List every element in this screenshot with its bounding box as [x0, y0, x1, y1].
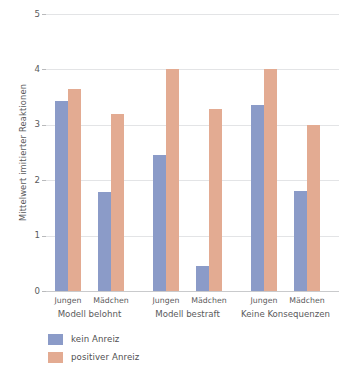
gridline-2 [46, 180, 339, 181]
y-tick-label-1: 1 [26, 231, 40, 240]
y-tick-label-2: 2 [26, 176, 40, 185]
legend-item[interactable]: kein Anreiz [48, 331, 139, 347]
bar [251, 105, 264, 291]
bar [294, 191, 307, 291]
gridline-3 [46, 125, 339, 126]
x-tick-label: Mädchen [179, 296, 239, 305]
x-tick-label: Mädchen [277, 296, 337, 305]
bar-chart-figure: Mittelwert imitierter Reaktionen 012345 … [0, 0, 350, 385]
y-tick-label-4: 4 [26, 65, 40, 74]
gridline-0 [46, 291, 339, 292]
plot-area [46, 14, 339, 291]
legend-swatch-icon [48, 334, 63, 345]
chart-legend: kein Anreizpositiver Anreiz [48, 331, 139, 367]
bar [264, 69, 277, 291]
legend-item[interactable]: positiver Anreiz [48, 349, 139, 365]
bar [68, 89, 81, 291]
y-tick-label-5: 5 [26, 10, 40, 19]
y-tick-label-0: 0 [26, 287, 40, 296]
bar [166, 69, 179, 291]
bar [98, 192, 111, 291]
x-tick-label: Mädchen [81, 296, 141, 305]
gridline-5 [46, 14, 339, 15]
bar [209, 109, 222, 291]
y-tick-label-3: 3 [26, 120, 40, 129]
bar [307, 125, 320, 291]
legend-label: kein Anreiz [71, 334, 119, 344]
legend-swatch-icon [48, 352, 63, 363]
bar [153, 155, 166, 291]
legend-label: positiver Anreiz [71, 352, 139, 362]
bar [111, 114, 124, 291]
gridline-4 [46, 69, 339, 70]
bar [55, 101, 68, 291]
bar [196, 266, 209, 291]
x-group-label: Keine Konsequenzen [226, 309, 346, 319]
y-axis-label: Mittelwert imitierter Reaktionen [16, 14, 30, 291]
